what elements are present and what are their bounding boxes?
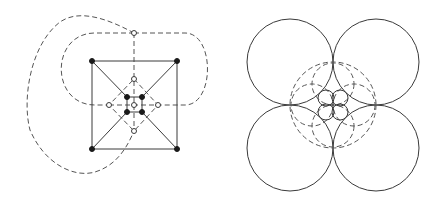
filled-node bbox=[125, 95, 130, 100]
diagonal-br bbox=[142, 112, 177, 149]
left-graph-panel bbox=[27, 16, 207, 174]
figure-canvas bbox=[0, 0, 437, 202]
open-node bbox=[107, 103, 112, 108]
filled-node bbox=[90, 147, 95, 152]
open-node bbox=[156, 103, 161, 108]
diagonal-tl bbox=[92, 61, 127, 97]
dual-outer-loop bbox=[27, 16, 134, 174]
filled-node bbox=[140, 110, 145, 115]
filled-node bbox=[140, 95, 145, 100]
diagonal-tr bbox=[142, 61, 177, 97]
filled-node bbox=[175, 59, 180, 64]
open-node bbox=[132, 129, 137, 134]
diagonal-bl bbox=[92, 112, 127, 149]
filled-node bbox=[90, 59, 95, 64]
diagram-svg bbox=[0, 0, 437, 202]
open-node bbox=[132, 103, 137, 108]
open-node bbox=[132, 77, 137, 82]
open-node bbox=[132, 31, 137, 36]
dual-left-loop bbox=[61, 33, 134, 105]
filled-node bbox=[125, 110, 130, 115]
right-circle-packing-panel bbox=[247, 19, 419, 191]
filled-node bbox=[175, 147, 180, 152]
